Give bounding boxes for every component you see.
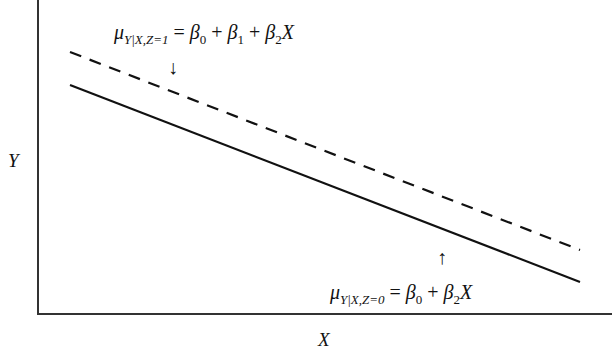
subscript: Y|X,Z=1 bbox=[124, 32, 169, 47]
y-axis-label: Y bbox=[8, 151, 19, 170]
mu-symbol: μ bbox=[114, 21, 124, 43]
beta2: β bbox=[444, 281, 454, 303]
x-axis-label: X bbox=[318, 330, 330, 349]
beta0: β bbox=[190, 21, 200, 43]
equals: = bbox=[169, 21, 190, 43]
beta2: β bbox=[265, 21, 275, 43]
beta0: β bbox=[406, 281, 416, 303]
plus: + bbox=[206, 21, 227, 43]
arrow-up-icon: ↑ bbox=[437, 247, 447, 267]
x-var: X bbox=[460, 281, 472, 303]
equation-z0: μY|X,Z=0 = β0 + β2X bbox=[330, 282, 472, 302]
chart-canvas bbox=[0, 0, 612, 356]
plus: + bbox=[244, 21, 265, 43]
dashed-line-z1 bbox=[70, 52, 580, 250]
arrow-down-icon: ↓ bbox=[168, 57, 178, 77]
subscript: Y|X,Z=0 bbox=[340, 292, 385, 307]
equation-z1: μY|X,Z=1 = β0 + β1 + β2X bbox=[114, 22, 294, 42]
solid-line-z0 bbox=[70, 85, 580, 282]
plus: + bbox=[422, 281, 443, 303]
equals: = bbox=[385, 281, 406, 303]
beta1: β bbox=[228, 21, 238, 43]
x-var: X bbox=[282, 21, 294, 43]
mu-symbol: μ bbox=[330, 281, 340, 303]
